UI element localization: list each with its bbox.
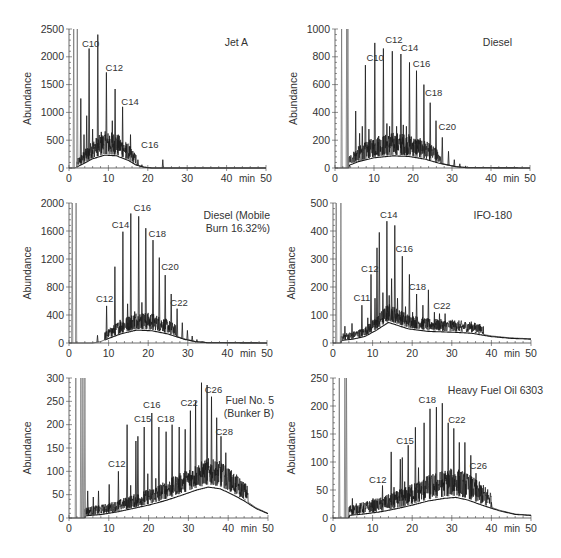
peak-label: C18	[149, 228, 166, 239]
chromatogram-trace	[333, 469, 531, 518]
y-tick-label: 100	[310, 309, 328, 321]
peak	[393, 487, 394, 508]
x-tick-label: 10	[103, 522, 115, 534]
peak-label: C18	[409, 281, 426, 292]
peak-label: C12	[96, 293, 113, 304]
x-tick-label: 10	[103, 172, 115, 184]
peak	[138, 216, 139, 329]
peak	[467, 329, 468, 332]
peak-label: C22	[180, 397, 197, 408]
y-tick-label: 800	[312, 50, 330, 62]
peak	[373, 140, 374, 157]
plot-area	[69, 29, 266, 168]
peak	[344, 326, 345, 340]
peak-label: C14	[112, 219, 129, 230]
peak	[137, 160, 138, 166]
panel-fuel-no5-bunker-b: 05010015020025030001020304050minAbundanc…	[21, 372, 274, 535]
peak-label: C26	[470, 460, 487, 471]
panel-title: Fuel No. 5(Bunker B)	[224, 394, 274, 419]
peak	[76, 203, 77, 343]
y-axis-label: Abundance	[285, 246, 297, 299]
peak	[394, 225, 395, 322]
y-tick-label: 1500	[41, 78, 65, 90]
y-tick-label: 0	[58, 162, 64, 174]
peak	[454, 160, 455, 167]
x-tick-label: 0	[66, 347, 72, 359]
x-axis-label: min	[241, 523, 257, 534]
panel-title: Heavy Fuel Oil 6303	[448, 384, 543, 396]
panel-title: Jet A	[225, 36, 248, 48]
x-tick-label: 20	[143, 522, 155, 534]
panel-diesel-mobile-burn: 040080012001600200001020304050minAbundan…	[21, 197, 273, 360]
peak	[461, 326, 462, 332]
peak-label: C14	[401, 42, 418, 53]
x-tick-label: 30	[182, 347, 194, 359]
peak	[82, 378, 83, 518]
x-axis-label: min	[504, 348, 520, 359]
peak-label: C14	[121, 96, 138, 107]
peak	[115, 89, 116, 155]
panel-title: IFO-180	[473, 209, 512, 221]
peak	[109, 136, 110, 155]
x-tick-label: 40	[486, 347, 498, 359]
panel-heavy-fuel-oil-6303: 05010015020025001020304050minAbundanceC1…	[285, 372, 543, 535]
panel-ifo-180: 010020030040050001020304050minAbundanceC…	[285, 197, 537, 360]
peak	[155, 478, 156, 502]
peak	[130, 135, 131, 162]
y-tick-label: 400	[310, 225, 328, 237]
peak	[77, 29, 78, 167]
y-tick-label: 200	[310, 400, 328, 412]
y-tick-label: 0	[322, 512, 328, 524]
peak-label: C18	[419, 394, 436, 405]
peak-label: C10	[366, 52, 383, 63]
peak	[135, 441, 136, 507]
peak	[187, 330, 188, 339]
peak	[192, 336, 193, 341]
peak	[346, 378, 347, 518]
chromatogram-trace	[69, 313, 267, 343]
peak	[162, 160, 163, 168]
y-tick-label: 500	[310, 197, 328, 209]
peak	[158, 427, 159, 501]
plot-area	[335, 29, 530, 168]
x-tick-label: 30	[181, 172, 193, 184]
y-tick-label: 0	[58, 337, 64, 349]
peak	[339, 378, 340, 518]
hump-envelope	[105, 330, 267, 343]
x-tick-label: 20	[406, 347, 418, 359]
y-tick-label: 250	[46, 395, 64, 407]
y-axis-label: Abundance	[287, 72, 299, 125]
peak	[89, 49, 90, 161]
panel-jet-a: 0500100015002000250001020304050minAbunda…	[21, 23, 272, 185]
x-axis-label: min	[504, 523, 520, 534]
peak	[402, 256, 403, 325]
peak-label: C14	[380, 209, 397, 220]
y-tick-label: 2000	[41, 50, 65, 62]
panel-diesel: 0200400600800100001020304050minAbundance…	[287, 23, 536, 185]
chromatogram-trace	[335, 133, 530, 168]
peak	[376, 248, 377, 329]
peak	[80, 99, 81, 165]
y-tick-label: 500	[46, 134, 64, 146]
peak	[475, 473, 476, 501]
peak	[130, 214, 131, 331]
peak-label: C16	[143, 399, 160, 410]
y-tick-label: 2500	[41, 23, 65, 35]
x-tick-label: 20	[406, 522, 418, 534]
x-tick-label: 0	[66, 522, 72, 534]
panel-title: Diesel (MobileBurn 16.32%)	[203, 209, 270, 234]
x-tick-label: 10	[368, 172, 380, 184]
x-tick-label: 50	[524, 172, 536, 184]
y-tick-label: 1600	[41, 225, 65, 237]
x-tick-label: 20	[142, 347, 154, 359]
peak	[420, 140, 421, 157]
x-tick-label: 50	[260, 172, 272, 184]
peak	[73, 29, 74, 168]
peak-label: C12	[361, 263, 378, 274]
peak	[235, 483, 236, 494]
y-axis-label: Abundance	[21, 72, 33, 125]
peak	[428, 290, 429, 331]
peak-label: C10	[82, 38, 99, 49]
peak	[340, 203, 341, 343]
x-tick-label: 50	[525, 347, 537, 359]
